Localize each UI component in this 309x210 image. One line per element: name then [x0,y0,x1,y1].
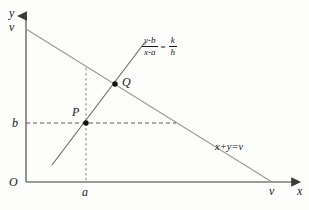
slope-equation-denominator-right: h [169,47,178,57]
budget-line-label: x+y=v [215,142,243,153]
y-axis-label: y [9,7,14,19]
x-axis-label: x [297,185,302,197]
x-intercept-label: v [269,185,274,197]
point-P-marker [83,120,88,125]
y-tick-label-b: b [12,117,18,129]
y-intercept-label: v [9,21,14,33]
point-Q-label: Q [122,76,131,88]
slope-equation-denominator-left: x-a [142,47,158,57]
slope-equation: y-b x-a = k h [142,36,177,57]
figure-container: y v O x v b a P Q x+y=v y-b x-a = k h [0,0,309,210]
slope-equation-numerator-left: y-b [142,36,158,47]
x-tick-label-a: a [82,186,88,198]
ratio-line [52,42,145,165]
slope-equation-numerator-right: k [169,36,177,47]
slope-equation-right-fraction: k h [169,36,178,57]
origin-label: O [9,176,18,188]
point-P-label: P [72,106,79,118]
slope-equation-equals: = [161,42,166,52]
figure-canvas [0,0,309,210]
point-Q-marker [112,81,117,86]
slope-equation-left-fraction: y-b x-a [142,36,158,57]
